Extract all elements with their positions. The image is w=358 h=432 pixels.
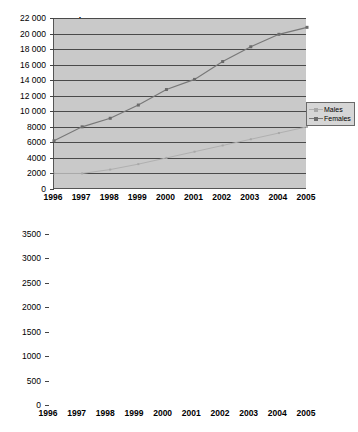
y-axis-tick-mark <box>45 405 49 406</box>
x-axis-tick-label: 1996 <box>34 409 62 418</box>
x-axis-tick-label: 1998 <box>91 409 119 418</box>
data-point-males <box>222 144 224 146</box>
x-axis-tick-label: 2000 <box>149 409 177 418</box>
x-axis-tick-label: 2004 <box>263 409 291 418</box>
y-axis-tick-mark <box>50 80 54 81</box>
y-axis-tick-mark <box>50 49 54 50</box>
x-axis-tick-label: 1996 <box>39 193 67 202</box>
x-axis-tick-label: 2003 <box>235 409 263 418</box>
chart-top: Numbers 0200040006000800010 00012 00014 … <box>0 0 358 216</box>
data-point-males <box>278 132 280 134</box>
data-point-females <box>277 33 280 36</box>
y-axis-tick-label: 3500 <box>0 230 46 239</box>
y-axis-tick-label: 4000 <box>0 154 51 163</box>
chart-page: Numbers 0200040006000800010 00012 00014 … <box>0 0 358 432</box>
y-axis-tick-label: 2500 <box>0 279 46 288</box>
legend-swatch-icon <box>309 115 323 123</box>
x-axis-tick-label: 2004 <box>264 193 292 202</box>
data-point-females <box>193 78 196 81</box>
data-point-males <box>81 172 83 174</box>
y-axis-tick-mark <box>45 332 49 333</box>
x-axis-tick-label: 2000 <box>151 193 179 202</box>
chart-bottom: Numbers 0500100015002000250030003500 199… <box>0 216 358 432</box>
x-axis-tick-label: 2005 <box>292 409 320 418</box>
y-axis-tick-label: 1500 <box>0 328 46 337</box>
legend-swatch-icon <box>309 106 323 114</box>
series-line-females <box>54 27 307 140</box>
y-axis-tick-mark <box>45 356 49 357</box>
x-axis-tick-label: 2001 <box>177 409 205 418</box>
y-axis-tick-label: 2000 <box>0 169 51 178</box>
data-point-males <box>194 151 196 153</box>
y-axis-tick-mark <box>50 142 54 143</box>
legend-item: Males <box>309 105 351 114</box>
x-axis-tick-label: 2002 <box>208 193 236 202</box>
chart-top-legend: MalesFemales <box>306 102 355 126</box>
y-axis-tick-mark <box>50 173 54 174</box>
y-axis-tick-mark <box>45 307 49 308</box>
data-point-females <box>165 88 168 91</box>
y-axis-tick-mark <box>45 283 49 284</box>
y-axis-tick-label: 18 000 <box>0 45 51 54</box>
y-axis-tick-label: 1000 <box>0 352 46 361</box>
y-axis-tick-label: 10 000 <box>0 107 51 116</box>
x-axis-tick-label: 1999 <box>123 193 151 202</box>
data-point-males <box>137 163 139 165</box>
y-axis-tick-label: 500 <box>0 377 46 386</box>
y-axis-tick-label: 20 000 <box>0 30 51 39</box>
y-axis-tick-mark <box>50 158 54 159</box>
chart-top-plot-area <box>53 18 306 189</box>
y-axis-tick-mark <box>50 18 54 19</box>
data-point-females <box>137 104 140 107</box>
y-axis-tick-label: 14 000 <box>0 76 51 85</box>
x-axis-tick-label: 2001 <box>180 193 208 202</box>
y-axis-tick-label: 16 000 <box>0 61 51 70</box>
data-point-males <box>250 138 252 140</box>
x-axis-tick-label: 2003 <box>236 193 264 202</box>
y-axis-tick-mark <box>45 234 49 235</box>
series-line-males <box>54 127 307 174</box>
x-axis-tick-label: 1997 <box>67 193 95 202</box>
y-axis-tick-mark <box>50 127 54 128</box>
y-axis-tick-label: 22 000 <box>0 14 51 23</box>
data-point-females <box>81 125 84 128</box>
y-axis-tick-label: 6000 <box>0 138 51 147</box>
chart-top-series-layer <box>54 18 307 189</box>
chart-top-inner: Numbers 0200040006000800010 00012 00014 … <box>0 0 358 216</box>
y-axis-tick-mark <box>50 96 54 97</box>
data-point-males <box>306 126 308 128</box>
data-point-females <box>249 45 252 48</box>
x-axis-tick-label: 1998 <box>95 193 123 202</box>
y-axis-tick-label: 3000 <box>0 254 46 263</box>
y-axis-tick-mark <box>50 111 54 112</box>
y-axis-tick-mark <box>50 189 54 190</box>
y-axis-tick-label: 8000 <box>0 123 51 132</box>
data-point-females <box>306 26 309 29</box>
data-point-males <box>165 157 167 159</box>
x-axis-tick-label: 1999 <box>120 409 148 418</box>
legend-label: Males <box>323 106 343 113</box>
x-axis-tick-label: 2005 <box>292 193 320 202</box>
legend-item: Females <box>309 114 351 123</box>
data-point-males <box>109 169 111 171</box>
y-axis-tick-mark <box>45 381 49 382</box>
chart-bottom-inner: Numbers 0500100015002000250030003500 199… <box>0 216 358 432</box>
x-axis-tick-label: 2002 <box>206 409 234 418</box>
y-axis-tick-mark <box>50 65 54 66</box>
data-point-females <box>109 117 112 120</box>
x-axis-tick-label: 1997 <box>63 409 91 418</box>
legend-label: Females <box>323 115 351 122</box>
y-axis-tick-mark <box>45 258 49 259</box>
y-axis-tick-label: 12 000 <box>0 92 51 101</box>
y-axis-tick-label: 2000 <box>0 303 46 312</box>
data-point-females <box>221 60 224 63</box>
y-axis-tick-mark <box>50 34 54 35</box>
